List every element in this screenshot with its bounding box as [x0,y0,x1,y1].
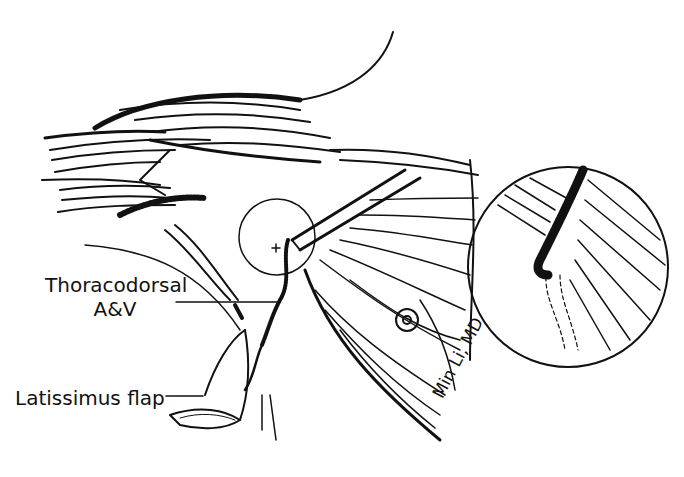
latissimus-flap [170,330,248,428]
thoracodorsal-label: Thoracodorsal A&V [45,273,185,321]
skin-contour [300,32,393,100]
thoracodorsal-label-line2: A&V [45,297,185,321]
latissimus-muscle [305,160,478,440]
thoracodorsal-label-line1: Thoracodorsal [45,273,187,297]
detail-region-circle [239,199,315,275]
inset-vessel-course-1 [546,277,565,350]
ligature-mark [272,244,280,252]
striated-band [120,198,205,215]
upper-muscle-bundle [42,95,478,212]
thoracodorsal-vessel [262,240,288,345]
magnified-inset [468,167,668,367]
latissimus-flap-label: Latissimus flap [15,386,165,410]
retractor [292,170,420,250]
